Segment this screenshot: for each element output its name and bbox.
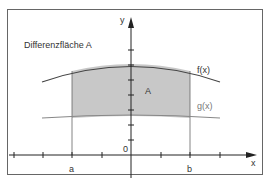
title-label: Differenzfläche A [24, 40, 92, 50]
diagram: Differenzfläche A A f(x) g(x) y x 0 a b [0, 0, 270, 180]
origin-label: 0 [123, 144, 128, 154]
g-label: g(x) [197, 101, 213, 111]
y-arrow-icon [128, 17, 134, 28]
a-label: a [69, 164, 74, 174]
f-label: f(x) [197, 65, 210, 75]
b-label: b [187, 164, 192, 174]
y-axis-label: y [120, 15, 125, 25]
area-label: A [145, 86, 151, 96]
x-axis-label: x [251, 158, 256, 168]
